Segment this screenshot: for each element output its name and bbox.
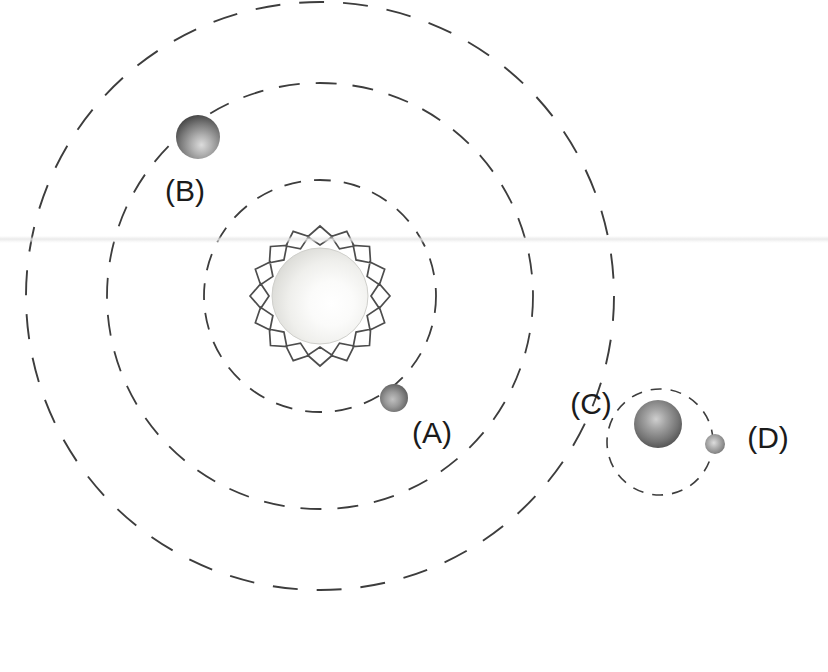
moon-d-sphere [705,434,725,454]
label-moon-d: (D) [747,421,789,454]
label-planet-c: (C) [570,387,612,420]
sun-disk [272,248,368,344]
planet-b-sphere [176,115,220,159]
sun-group [250,226,390,366]
orbit-diagram-canvas: (A) (B) (C) (D) [0,0,828,672]
planet-c-sphere [634,400,682,448]
solar-system-scene: (A) (B) (C) (D) [0,0,828,672]
label-planet-a: (A) [412,416,452,449]
label-planet-b: (B) [165,174,205,207]
bodies-group [176,115,725,454]
planet-a-sphere [380,384,408,412]
